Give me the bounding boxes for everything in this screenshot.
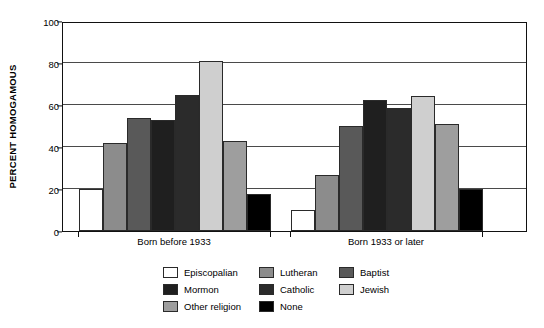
bar-lutheran — [315, 175, 339, 231]
legend-entry-mormon[interactable]: Mormon — [163, 284, 259, 295]
bar-none — [459, 189, 483, 231]
y-tick-label: 60 — [25, 101, 59, 112]
legend-label: Mormon — [184, 284, 219, 295]
bar-baptist — [127, 118, 151, 231]
legend-entry-catholic[interactable]: Catholic — [259, 284, 339, 295]
legend-swatch-icon — [163, 267, 178, 278]
x-group-label: Born 1933 or later — [348, 236, 424, 247]
x-tick-mark — [290, 232, 291, 237]
bar-other-religion — [223, 141, 247, 231]
x-tick-mark — [270, 232, 271, 237]
y-tick-label: 20 — [25, 185, 59, 196]
bar-catholic — [175, 95, 199, 232]
y-tick-label: 80 — [25, 59, 59, 70]
bar-mormon — [363, 100, 387, 231]
bar-other-religion — [435, 124, 459, 231]
bar-jewish — [411, 96, 435, 231]
bar-mormon — [151, 120, 175, 231]
legend-swatch-icon — [259, 301, 274, 312]
bar-chart-figure: PERCENT HOMOGAMOUS 020406080100 Born bef… — [0, 0, 544, 328]
legend-label: Catholic — [280, 284, 314, 295]
legend-label: Lutheran — [280, 267, 318, 278]
legend-swatch-icon — [339, 284, 354, 295]
bar-none — [247, 194, 271, 231]
legend-entry-other-religion[interactable]: Other religion — [163, 301, 259, 312]
bar-baptist — [339, 126, 363, 231]
gridline — [63, 62, 526, 63]
legend-entry-lutheran[interactable]: Lutheran — [259, 267, 339, 278]
legend-swatch-icon — [259, 267, 274, 278]
chart-legend: EpiscopalianLutheranBaptistMormonCatholi… — [163, 264, 408, 315]
x-group-label: Born before 1933 — [137, 236, 210, 247]
legend-label: Episcopalian — [184, 267, 238, 278]
x-tick-mark — [482, 232, 483, 237]
legend-label: Other religion — [184, 301, 241, 312]
bar-lutheran — [103, 143, 127, 231]
y-tick-label: 40 — [25, 143, 59, 154]
legend-label: Baptist — [360, 267, 389, 278]
y-tick-label: 100 — [25, 17, 59, 28]
legend-swatch-icon — [259, 284, 274, 295]
legend-swatch-icon — [163, 284, 178, 295]
bar-episcopalian — [79, 189, 103, 231]
legend-entry-baptist[interactable]: Baptist — [339, 267, 407, 278]
legend-row: Other religionNone — [163, 298, 408, 315]
legend-entry-jewish[interactable]: Jewish — [339, 284, 407, 295]
bar-jewish — [199, 61, 223, 231]
bar-episcopalian — [291, 210, 315, 231]
x-tick-mark — [78, 232, 79, 237]
y-axis-title: PERCENT HOMOGAMOUS — [4, 20, 22, 232]
legend-swatch-icon — [339, 267, 354, 278]
bar-catholic — [387, 108, 411, 231]
legend-entry-episcopalian[interactable]: Episcopalian — [163, 267, 259, 278]
y-tick-label: 0 — [25, 227, 59, 238]
legend-swatch-icon — [163, 301, 178, 312]
legend-entry-none[interactable]: None — [259, 301, 339, 312]
plot-area — [62, 22, 527, 232]
legend-row: MormonCatholicJewish — [163, 281, 408, 298]
legend-row: EpiscopalianLutheranBaptist — [163, 264, 408, 281]
legend-label: None — [280, 301, 303, 312]
gridline — [63, 104, 526, 105]
legend-label: Jewish — [360, 284, 389, 295]
y-axis-title-label: PERCENT HOMOGAMOUS — [8, 64, 19, 188]
